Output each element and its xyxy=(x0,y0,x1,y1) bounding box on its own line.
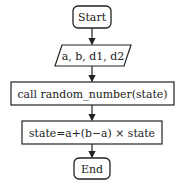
assign-label: state=a+(b−a) × state xyxy=(29,127,155,140)
flowchart: Start a, b, d1, d2 call random_number(st… xyxy=(0,0,184,192)
start-node: Start xyxy=(73,6,111,28)
end-label: End xyxy=(81,163,103,176)
call-label: call random_number(state) xyxy=(18,88,168,101)
end-node: End xyxy=(74,158,110,179)
input-label: a, b, d1, d2 xyxy=(62,50,125,63)
start-label: Start xyxy=(78,11,107,24)
assign-node: state=a+(b−a) × state xyxy=(22,121,162,144)
input-node: a, b, d1, d2 xyxy=(55,45,131,66)
call-node: call random_number(state) xyxy=(11,82,174,105)
